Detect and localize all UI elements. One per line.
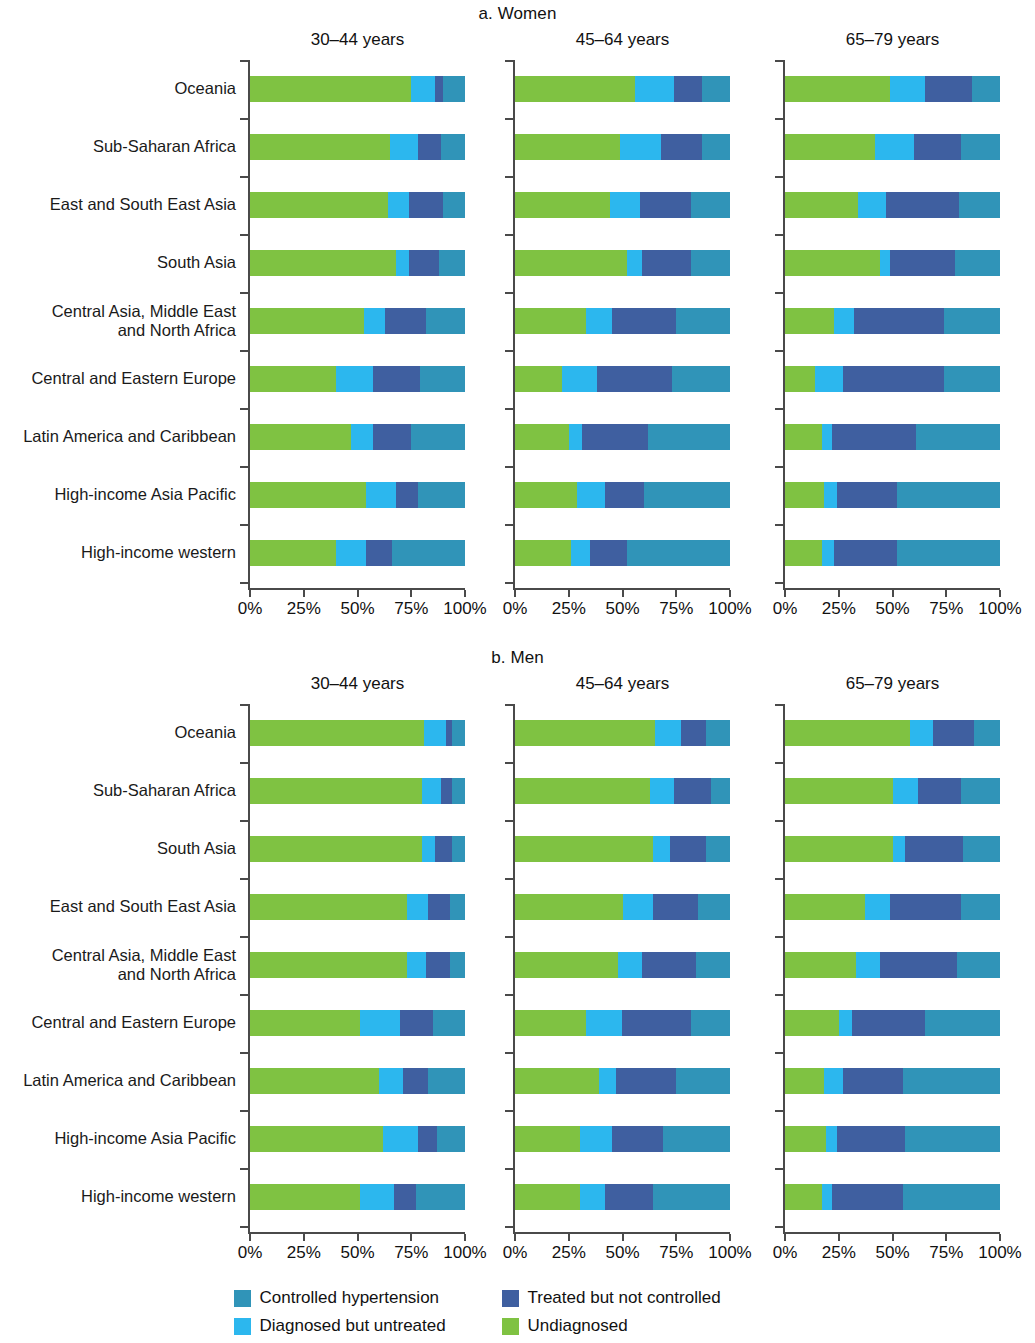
bar-cell xyxy=(515,1052,730,1110)
segment-controlled-hypertension xyxy=(418,482,465,508)
legend-row: Diagnosed but untreatedUndiagnosed xyxy=(0,1316,1035,1336)
stacked-bar xyxy=(785,366,1000,392)
segment-controlled-hypertension xyxy=(955,250,1000,276)
y-axis-tick xyxy=(775,292,783,294)
x-axis-tick-label: 50% xyxy=(593,599,653,619)
bar-cell xyxy=(250,762,465,820)
segment-undiagnosed xyxy=(785,250,880,276)
segment-controlled-hypertension xyxy=(903,1068,1000,1094)
segment-undiagnosed xyxy=(785,540,822,566)
figure-root: a. Women30–44 years45–64 years65–79 year… xyxy=(0,0,1035,1343)
segment-controlled-hypertension xyxy=(696,952,730,978)
segment-controlled-hypertension xyxy=(963,836,1000,862)
y-axis-tick xyxy=(505,762,513,764)
bar-cell xyxy=(250,1110,465,1168)
row-label-men-3: East and South East Asia xyxy=(0,878,236,936)
x-axis-tick-label: 75% xyxy=(916,599,976,619)
segment-diagnosed-untreated xyxy=(424,720,446,746)
chart-canvas: a. Women30–44 years45–64 years65–79 year… xyxy=(0,0,1035,1343)
segment-treated-not-controlled xyxy=(366,540,392,566)
segment-undiagnosed xyxy=(250,76,411,102)
x-axis-tick xyxy=(729,1234,731,1241)
legend-swatch-1 xyxy=(502,1290,519,1307)
segment-undiagnosed xyxy=(250,1126,383,1152)
segment-undiagnosed xyxy=(785,720,910,746)
x-axis-tick xyxy=(784,590,786,597)
segment-undiagnosed xyxy=(250,720,424,746)
segment-undiagnosed xyxy=(785,1068,824,1094)
segment-treated-not-controlled xyxy=(622,1010,691,1036)
x-axis-tick-label: 75% xyxy=(381,599,441,619)
segment-controlled-hypertension xyxy=(691,192,730,218)
bar-cell xyxy=(785,234,1000,292)
x-axis-tick-label: 75% xyxy=(381,1243,441,1263)
segment-controlled-hypertension xyxy=(672,366,730,392)
y-axis-tick xyxy=(240,878,248,880)
segment-undiagnosed xyxy=(785,134,875,160)
segment-treated-not-controlled xyxy=(394,1184,416,1210)
row-label-women-0: Oceania xyxy=(0,60,236,118)
y-axis-tick xyxy=(505,60,513,62)
y-axis-tick xyxy=(240,118,248,120)
segment-controlled-hypertension xyxy=(420,366,465,392)
segment-controlled-hypertension xyxy=(711,778,730,804)
segment-treated-not-controlled xyxy=(612,308,677,334)
y-axis-tick xyxy=(505,704,513,706)
bar-cell xyxy=(785,408,1000,466)
stacked-bar xyxy=(515,778,730,804)
x-axis-tick-label: 25% xyxy=(274,1243,334,1263)
bar-cell xyxy=(515,704,730,762)
segment-undiagnosed xyxy=(250,250,396,276)
stacked-bar xyxy=(785,308,1000,334)
segment-diagnosed-untreated xyxy=(824,1068,843,1094)
row-label-women-2: East and South East Asia xyxy=(0,176,236,234)
y-axis-tick xyxy=(505,936,513,938)
x-axis-tick-label: 75% xyxy=(646,1243,706,1263)
x-axis-tick-label: 25% xyxy=(539,1243,599,1263)
bar-cell xyxy=(250,408,465,466)
y-axis-tick xyxy=(775,524,783,526)
x-axis-tick xyxy=(838,1234,840,1241)
bar-cell xyxy=(785,176,1000,234)
y-axis-tick xyxy=(775,1052,783,1054)
bar-cell xyxy=(515,234,730,292)
stacked-bar xyxy=(250,1010,465,1036)
column-title-men-2: 65–79 years xyxy=(785,674,1000,694)
segment-treated-not-controlled xyxy=(925,76,972,102)
segment-controlled-hypertension xyxy=(897,482,1000,508)
bar-cell xyxy=(250,1052,465,1110)
segment-diagnosed-untreated xyxy=(618,952,642,978)
y-axis-tick xyxy=(775,1110,783,1112)
stacked-bar xyxy=(250,540,465,566)
segment-undiagnosed xyxy=(250,1010,360,1036)
x-axis-tick xyxy=(784,1234,786,1241)
row-label-women-4: Central Asia, Middle East and North Afri… xyxy=(0,292,236,350)
segment-controlled-hypertension xyxy=(944,308,1000,334)
segment-treated-not-controlled xyxy=(905,836,963,862)
y-axis-tick xyxy=(240,820,248,822)
bar-cell xyxy=(250,292,465,350)
stacked-bar xyxy=(515,952,730,978)
stacked-bar xyxy=(515,250,730,276)
stacked-bar xyxy=(250,952,465,978)
segment-undiagnosed xyxy=(785,1010,839,1036)
segment-treated-not-controlled xyxy=(670,836,707,862)
stacked-bar xyxy=(250,1126,465,1152)
segment-undiagnosed xyxy=(250,952,407,978)
segment-controlled-hypertension xyxy=(648,424,730,450)
segment-diagnosed-untreated xyxy=(834,308,853,334)
bar-cell xyxy=(515,118,730,176)
x-axis-tick xyxy=(675,590,677,597)
segment-diagnosed-untreated xyxy=(858,192,886,218)
x-axis-tick xyxy=(729,590,731,597)
stacked-bar xyxy=(515,192,730,218)
bar-cell xyxy=(785,704,1000,762)
legend-label: Diagnosed but untreated xyxy=(260,1316,446,1336)
segment-treated-not-controlled xyxy=(852,1010,925,1036)
bar-cell xyxy=(785,350,1000,408)
segment-controlled-hypertension xyxy=(961,134,1000,160)
segment-diagnosed-untreated xyxy=(379,1068,403,1094)
segment-treated-not-controlled xyxy=(886,192,959,218)
segment-controlled-hypertension xyxy=(903,1184,1000,1210)
row-label-women-3: South Asia xyxy=(0,234,236,292)
